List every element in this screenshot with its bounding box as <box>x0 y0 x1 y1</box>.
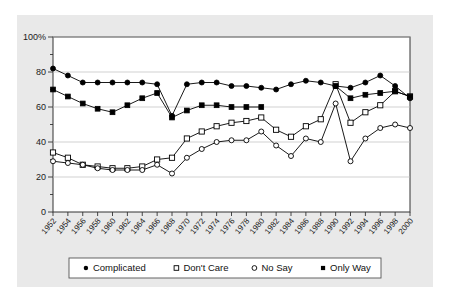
data-point <box>155 91 160 96</box>
data-point <box>378 103 383 108</box>
data-point <box>333 84 338 89</box>
data-point <box>169 155 174 160</box>
x-tick-label: 1968 <box>159 216 178 236</box>
x-tick-label: 1952 <box>40 216 59 236</box>
data-point <box>318 140 323 145</box>
data-point <box>348 96 353 101</box>
y-tick-label: 100% <box>23 32 46 42</box>
x-tick-label: 1984 <box>278 216 297 236</box>
data-point <box>140 168 145 173</box>
data-point <box>378 126 383 131</box>
x-tick-label: 1966 <box>144 216 163 236</box>
data-point <box>303 124 308 129</box>
data-point <box>363 110 368 115</box>
data-point <box>155 82 160 87</box>
data-point <box>95 166 100 171</box>
data-point <box>259 129 264 134</box>
x-tick-label: 1964 <box>129 216 148 236</box>
x-tick-label: 1998 <box>382 216 401 236</box>
data-point <box>184 136 189 141</box>
legend-label: Only Way <box>330 262 371 273</box>
x-tick-label: 1988 <box>307 216 326 236</box>
x-tick-label: 1960 <box>99 216 118 236</box>
x-tick-label: 1976 <box>218 216 237 236</box>
data-point <box>125 80 130 85</box>
x-tick-label: 1974 <box>203 216 222 236</box>
data-point <box>65 155 70 160</box>
data-point <box>303 78 308 83</box>
data-point <box>184 82 189 87</box>
legend-marker-open-square-icon <box>174 266 179 271</box>
data-point <box>393 84 398 89</box>
x-tick-label: 1970 <box>174 216 193 236</box>
x-tick-label: 1994 <box>352 216 371 236</box>
data-point <box>140 80 145 85</box>
data-point <box>333 101 338 106</box>
legend-label: Complicated <box>93 262 146 273</box>
data-point <box>289 154 294 159</box>
data-point <box>214 80 219 85</box>
legend-marker-filled-circle-icon <box>84 266 88 270</box>
data-point <box>378 73 383 78</box>
legend-marker-filled-square-icon <box>321 266 325 270</box>
x-tick-label: 1990 <box>322 216 341 236</box>
data-point <box>348 85 353 90</box>
x-axis-tick-labels: 1952195419561958196019621964196619681970… <box>40 216 416 236</box>
data-point <box>65 161 70 166</box>
data-point <box>170 171 175 176</box>
data-point <box>51 66 56 71</box>
y-tick-label: 80 <box>36 67 46 77</box>
legend-item-complicated[interactable]: Complicated <box>84 262 146 273</box>
data-point <box>214 140 219 145</box>
chart-figure: 020406080100% 19521954195619581960196219… <box>17 15 433 287</box>
x-tick-label: 2000 <box>397 216 416 236</box>
data-point <box>95 80 100 85</box>
x-tick-label: 1982 <box>263 216 282 236</box>
data-point <box>259 105 264 110</box>
data-point <box>50 150 55 155</box>
chart-svg: 020406080100% 19521954195619581960196219… <box>17 15 433 287</box>
data-point <box>244 105 249 110</box>
data-point <box>155 157 160 162</box>
chart-plot-area: 020406080100% 19521954195619581960196219… <box>17 15 433 287</box>
x-tick-label: 1962 <box>114 216 133 236</box>
data-point <box>184 108 189 113</box>
data-point <box>110 110 115 115</box>
data-point <box>318 80 323 85</box>
x-tick-label: 1956 <box>69 216 88 236</box>
data-point <box>199 103 204 108</box>
data-point <box>80 101 85 106</box>
data-point <box>110 80 115 85</box>
x-tick-label: 1992 <box>337 216 356 236</box>
data-point <box>348 159 353 164</box>
data-point <box>95 106 100 111</box>
data-point <box>393 122 398 127</box>
y-tick-label: 40 <box>36 137 46 147</box>
y-tick-label: 20 <box>36 172 46 182</box>
chart-legend: ComplicatedDon't CareNo SayOnly Way <box>69 258 381 278</box>
data-point <box>51 159 56 164</box>
data-point <box>229 105 234 110</box>
data-point <box>125 103 130 108</box>
data-point <box>214 103 219 108</box>
data-point <box>393 89 398 94</box>
x-axis-ticks <box>53 212 410 216</box>
x-tick-label: 1978 <box>233 216 252 236</box>
data-point <box>244 118 249 123</box>
data-point <box>244 138 249 143</box>
data-point <box>80 162 85 167</box>
x-tick-label: 1980 <box>248 216 267 236</box>
data-point <box>363 136 368 141</box>
data-point <box>303 136 308 141</box>
y-tick-label: 0 <box>41 207 46 217</box>
data-point <box>140 96 145 101</box>
data-point <box>170 115 175 120</box>
data-point <box>51 87 56 92</box>
legend-label: No Say <box>261 262 292 273</box>
data-point <box>259 85 264 90</box>
data-point <box>229 138 234 143</box>
data-point <box>274 87 279 92</box>
data-point <box>229 120 234 125</box>
data-point <box>378 91 383 96</box>
data-point <box>288 134 293 139</box>
